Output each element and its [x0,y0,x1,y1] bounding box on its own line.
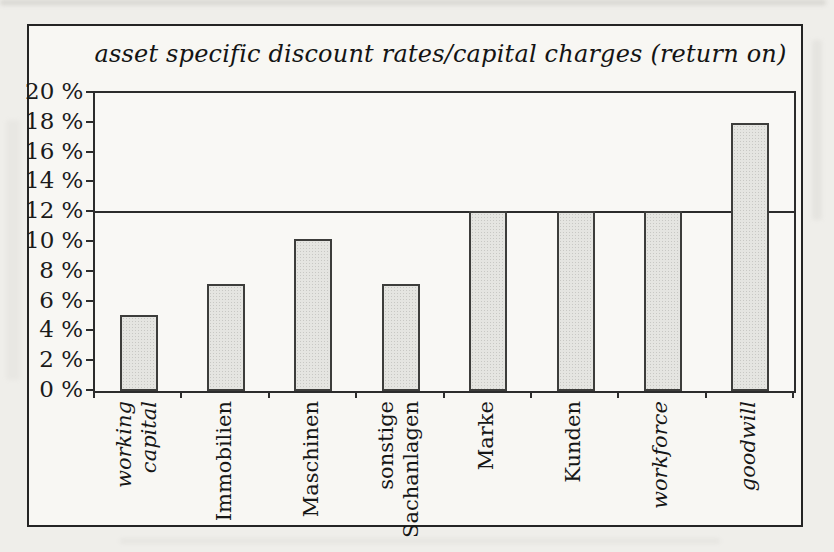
y-tick-mark [86,329,94,331]
x-label-working-capital: workingcapital [112,401,162,541]
x-label-maschinen: Maschinen [299,401,324,541]
bar-workforce [644,211,682,391]
y-tick-mark [86,240,94,242]
y-tick-mark [86,151,94,153]
x-label-workforce: workforce [648,401,673,541]
y-tick-label-8: 8 % [25,259,83,282]
y-tick-label-12: 12 % [25,199,83,222]
y-tick-label-20: 20 % [25,80,83,103]
scan-bleed-artifact [812,40,822,220]
y-tick-mark [86,359,94,361]
y-tick-mark [86,270,94,272]
chart-figure-frame: asset specific discount rates/capital ch… [27,24,803,527]
x-label-wrap-goodwill: goodwill [736,401,834,426]
x-tick-mark [530,391,532,398]
x-label-kunden: Kunden [561,401,586,541]
x-tick-mark [792,391,794,398]
bar-kunden [557,211,595,391]
chart-title: asset specific discount rates/capital ch… [91,40,790,68]
x-label-marke: Marke [474,401,499,541]
y-tick-label-10: 10 % [25,229,83,252]
y-tick-mark [86,180,94,182]
scan-bleed-artifact [6,120,20,380]
bar-marke [469,211,507,391]
x-label-goodwill: goodwill [736,401,761,541]
x-tick-mark [180,391,182,398]
y-tick-label-2: 2 % [25,348,83,371]
bar-sonstige-sachanlagen [382,284,420,391]
y-tick-mark [86,91,94,93]
y-tick-label-16: 16 % [25,140,83,163]
y-tick-mark [86,210,94,212]
scan-bleed-artifact [0,0,826,5]
x-tick-mark [617,391,619,398]
x-tick-mark [705,391,707,398]
bar-goodwill [731,123,769,391]
y-tick-label-14: 14 % [25,169,83,192]
x-tick-mark [93,391,95,398]
bar-maschinen [294,239,332,391]
x-label-sonstige-sachanlagen: sonstigeSachanlagen [374,401,424,541]
y-tick-mark [86,300,94,302]
y-tick-label-0: 0 % [25,378,83,401]
y-tick-label-18: 18 % [25,110,83,133]
x-tick-mark [443,391,445,398]
y-tick-label-4: 4 % [25,318,83,341]
x-tick-mark [355,391,357,398]
reference-line-12-percent [95,211,794,213]
y-tick-mark [86,121,94,123]
plot-area [93,91,796,393]
x-label-immobilien: Immobilien [212,401,237,541]
y-tick-label-6: 6 % [25,289,83,312]
x-tick-mark [268,391,270,398]
bar-immobilien [207,284,245,391]
bar-working-capital [120,315,158,391]
